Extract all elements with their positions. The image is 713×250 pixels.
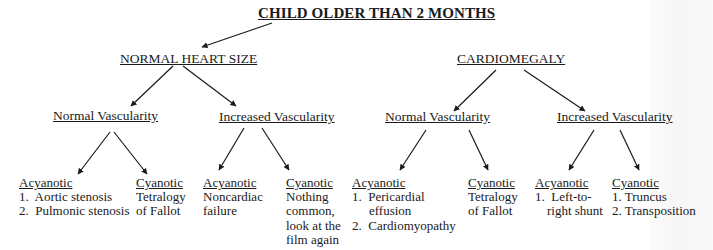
root-title: CHILD OLDER THAN 2 MONTHS	[258, 5, 495, 22]
arrow-nhs-to-increased-vascularity	[183, 66, 236, 106]
leaf-line: failure	[203, 204, 263, 218]
leaf-line: right shunt	[535, 204, 603, 218]
leaf-heading: Acyanotic	[352, 176, 456, 190]
leaf-heading: Acyanotic	[203, 176, 263, 190]
leaf-line: Nothing	[286, 190, 341, 204]
leaf-heading: Acyanotic	[19, 176, 130, 190]
leaf-line: 2. Transposition	[612, 204, 696, 218]
leaf-heading: Cyanotic	[286, 176, 341, 190]
flowchart: CHILD OLDER THAN 2 MONTHS NORMAL HEART S…	[0, 0, 713, 250]
leaf-line: effusion	[352, 204, 456, 218]
leaf-line: 1. Left-to-	[535, 190, 603, 204]
leaf-cardio-nv-acyanotic: Acyanotic 1. Pericardial effusion 2. Car…	[352, 176, 456, 233]
cardio-normal-vascularity: Normal Vascularity	[385, 109, 490, 125]
leaf-nhs-iv-acyanotic: Acyanotic Noncardiac failure	[203, 176, 263, 219]
cardio-increased-vascularity: Increased Vascularity	[557, 109, 673, 125]
arrow-cardio-to-increased-vascularity	[524, 70, 585, 111]
leaf-line: 1. Aortic stenosis	[19, 190, 130, 204]
leaf-line: look at the	[286, 219, 341, 233]
leaf-heading: Acyanotic	[535, 176, 603, 190]
leaf-heading: Cyanotic	[136, 176, 186, 190]
arrow-nhs-to-normal-vascularity	[131, 66, 173, 106]
arrow-cardio-to-normal-vascularity	[454, 70, 496, 111]
leaf-line: 2. Pulmonic stenosis	[19, 204, 130, 218]
leaf-nhs-iv-cyanotic: Cyanotic Nothing common, look at the fil…	[286, 176, 341, 247]
leaf-line: film again	[286, 233, 341, 247]
leaf-line: Noncardiac	[203, 190, 263, 204]
leaf-line: of Fallot	[468, 204, 518, 218]
nhs-increased-vascularity: Increased Vascularity	[219, 109, 335, 125]
leaf-cardio-iv-acyanotic: Acyanotic 1. Left-to- right shunt	[535, 176, 603, 219]
arrow-lnv-to-acyanotic	[78, 132, 110, 174]
arrow-riv-to-acyanotic	[569, 130, 594, 170]
leaf-line: Tetralogy	[136, 190, 186, 204]
branch-normal-heart-size: NORMAL HEART SIZE	[120, 51, 257, 67]
leaf-nhs-nv-acyanotic: Acyanotic 1. Aortic stenosis 2. Pulmonic…	[19, 176, 130, 219]
arrow-title-to-normal-heart-size	[202, 23, 272, 47]
leaf-line: of Fallot	[136, 204, 186, 218]
arrow-lnv-to-cyanotic	[114, 132, 147, 174]
leaf-nhs-nv-cyanotic: Cyanotic Tetralogy of Fallot	[136, 176, 186, 219]
leaf-cardio-nv-cyanotic: Cyanotic Tetralogy of Fallot	[468, 176, 518, 219]
leaf-line: 2. Cardiomyopathy	[352, 219, 456, 233]
arrow-liv-to-acyanotic	[219, 128, 244, 170]
nhs-normal-vascularity: Normal Vascularity	[53, 108, 158, 124]
leaf-cardio-iv-cyanotic: Cyanotic 1. Truncus 2. Transposition	[612, 176, 696, 219]
arrow-rnv-to-acyanotic	[400, 130, 426, 170]
leaf-line: common,	[286, 204, 341, 218]
leaf-heading: Cyanotic	[468, 176, 518, 190]
leaf-line: Tetralogy	[468, 190, 518, 204]
arrow-liv-to-cyanotic	[262, 128, 289, 170]
leaf-line: 1. Pericardial	[352, 190, 456, 204]
arrow-rnv-to-cyanotic	[469, 130, 488, 170]
leaf-heading: Cyanotic	[612, 176, 696, 190]
branch-cardiomegaly: CARDIOMEGALY	[457, 51, 565, 67]
arrow-riv-to-cyanotic	[620, 130, 639, 170]
leaf-line: 1. Truncus	[612, 190, 696, 204]
